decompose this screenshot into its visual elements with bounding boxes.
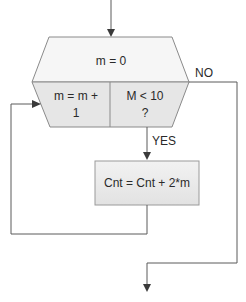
arrow-down-icon <box>143 152 151 160</box>
process-block: Cnt = Cnt + 2*m <box>95 161 199 205</box>
loop-increment-line2: 1 <box>73 106 80 120</box>
loop-init-block: m = 0 <box>32 37 189 82</box>
loop-init-label: m = 0 <box>96 54 127 68</box>
arrow-down-icon <box>143 284 151 292</box>
yes-label: YES <box>152 134 176 148</box>
yes-branch: YES <box>143 127 176 160</box>
loop-increment-line1: m = m + <box>54 89 98 103</box>
flowchart-canvas: m = 0 m = m + 1 M < 10 ? NO YES Cnt = Cn… <box>0 0 246 302</box>
process-label: Cnt = Cnt + 2*m <box>104 176 190 190</box>
loop-condition-line2: ? <box>142 106 149 120</box>
entry-arrow <box>107 0 115 37</box>
loop-condition-line1: M < 10 <box>126 89 163 103</box>
arrow-down-icon <box>107 29 115 37</box>
no-label: NO <box>195 66 213 80</box>
